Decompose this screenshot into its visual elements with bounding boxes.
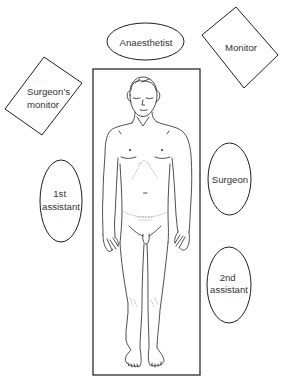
diagram-svg: Anaesthetist Monitor Surgeon’s monitor 1… [0, 0, 281, 381]
right-arm-outer [157, 122, 192, 232]
pubic-mark [137, 217, 153, 220]
theatre-layout-diagram: Anaesthetist Monitor Surgeon’s monitor 1… [0, 0, 281, 381]
right-eye [146, 98, 153, 99]
subcostal-line-right [148, 163, 158, 179]
mouth [140, 110, 147, 111]
anaesthetist-station: Anaesthetist [107, 23, 184, 60]
second-assistant-station: 2nd assistant [207, 247, 251, 323]
left-eye [133, 98, 140, 99]
neck-left [132, 112, 135, 123]
right-clavicle [167, 131, 169, 134]
surgeons-monitor-label-line-2: monitor [27, 99, 60, 110]
surgeon-label-line-1: Surgeon [212, 174, 248, 185]
second-assistant-label: 2nd assistant [210, 272, 248, 295]
surgeons-monitor-label: Surgeon’s monitor [27, 86, 73, 110]
neck-right [152, 112, 157, 122]
surgeons-monitor-label-line-1: Surgeon’s [27, 86, 70, 97]
second-assistant-label-line-2: assistant [210, 284, 248, 295]
first-assistant-station: 1st assistant [40, 160, 82, 242]
torso-right-side [168, 164, 170, 243]
first-assistant-label: 1st assistant [42, 188, 80, 212]
hairline [131, 81, 156, 90]
genitals [143, 234, 150, 244]
left-hand [103, 235, 118, 251]
surgeon-label: Surgeon [212, 174, 248, 185]
anaesthetist-label-line-1: Anaesthetist [120, 37, 173, 48]
monitor-label: Monitor [225, 42, 258, 53]
left-knee-mark [130, 298, 137, 307]
surgeon-station: Surgeon [208, 143, 251, 215]
lower-abdomen-line [124, 212, 168, 217]
right-hand [175, 232, 190, 250]
second-assistant-label-line-1: 2nd [220, 272, 236, 283]
right-nipple [161, 149, 163, 151]
first-assistant-label-line-2: assistant [42, 201, 80, 212]
left-pectoral [121, 157, 136, 159]
right-knee-mark [151, 298, 158, 307]
right-pectoral [155, 157, 170, 159]
left-clavicle [119, 131, 121, 134]
right-arm-inner [172, 158, 178, 232]
groin-right [149, 226, 161, 236]
patient-figure-icon [103, 77, 192, 367]
nose [142, 100, 145, 105]
left-arm-inner [115, 158, 118, 237]
monitor-station: Monitor [202, 7, 278, 88]
subcostal-line-left [132, 163, 141, 179]
torso-left-side [120, 164, 122, 243]
surgeons-monitor-station: Surgeon’s monitor [5, 57, 82, 135]
anaesthetist-label: Anaesthetist [120, 37, 173, 48]
left-nipple [129, 149, 131, 151]
operating-table [93, 69, 200, 375]
groin-left [129, 226, 143, 236]
first-assistant-label-line-1: 1st [53, 188, 66, 199]
monitor-label-line-1: Monitor [225, 42, 258, 53]
neck-v [137, 117, 149, 126]
left-leg [120, 243, 144, 366]
